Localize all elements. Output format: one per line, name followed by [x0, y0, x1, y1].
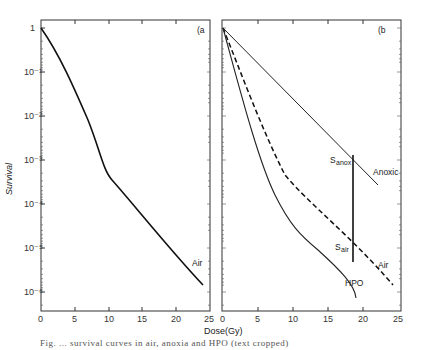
label-anoxic: Anoxic — [373, 167, 399, 177]
svg-text:20: 20 — [358, 314, 368, 324]
label-s-anox: S anox — [330, 155, 352, 166]
svg-text:anox: anox — [336, 159, 352, 166]
y-tick-labels: 1 10⁻¹ 10⁻² 10⁻³ 10⁻⁴ 10⁻⁵ 10⁻⁶ — [24, 23, 43, 297]
label-s-air: S air — [335, 242, 349, 253]
label-air-a: Air — [192, 258, 203, 268]
svg-text:10: 10 — [104, 314, 114, 324]
panel-b-label: (b — [378, 25, 386, 35]
y-axis-title: Survival — [4, 162, 14, 195]
svg-text:10⁻⁶: 10⁻⁶ — [24, 287, 43, 297]
curve-anoxic — [223, 28, 378, 185]
svg-text:10: 10 — [288, 314, 298, 324]
curve-air-b — [223, 28, 393, 285]
svg-text:25: 25 — [204, 314, 214, 324]
svg-text:25: 25 — [393, 314, 403, 324]
svg-text:10⁻³: 10⁻³ — [24, 155, 42, 165]
label-hpo: HPO — [345, 278, 364, 288]
svg-text:10⁻⁴: 10⁻⁴ — [24, 199, 43, 209]
svg-text:10⁻¹: 10⁻¹ — [24, 67, 42, 77]
panel-a: (a Air — [41, 20, 210, 311]
svg-text:15: 15 — [137, 314, 147, 324]
x-tick-labels-b: 0 5 10 15 20 25 — [220, 314, 403, 324]
curve-air-a — [41, 28, 203, 285]
svg-text:5: 5 — [255, 314, 260, 324]
svg-text:0: 0 — [38, 314, 43, 324]
panel-b: (b S anox S air Anoxic Air HPO — [222, 20, 401, 311]
panel-a-label: (a — [197, 25, 205, 35]
figure-caption-cropped: Fig. ... survival curves in air, anoxia … — [40, 338, 410, 350]
x-axis-title: Dose(Gy) — [204, 326, 243, 336]
svg-text:air: air — [341, 246, 349, 253]
svg-text:0: 0 — [220, 314, 225, 324]
svg-text:20: 20 — [171, 314, 181, 324]
svg-text:1: 1 — [30, 23, 35, 33]
label-air-b: Air — [378, 260, 389, 270]
svg-text:10⁻²: 10⁻² — [24, 111, 42, 121]
svg-text:15: 15 — [323, 314, 333, 324]
svg-text:5: 5 — [72, 314, 77, 324]
x-tick-labels-a: 0 5 10 15 20 25 — [38, 314, 214, 324]
svg-text:10⁻⁵: 10⁻⁵ — [24, 243, 43, 253]
